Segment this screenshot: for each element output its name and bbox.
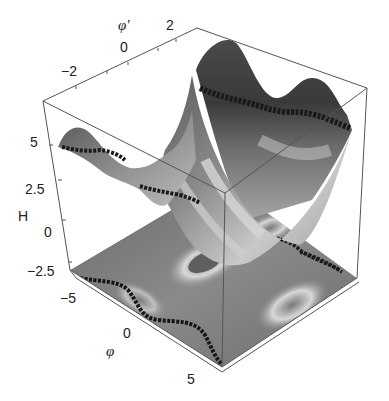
- y-tick-label: −2: [61, 63, 77, 79]
- x-tick-label: 5: [187, 371, 195, 387]
- surface-left-wave: [58, 110, 196, 206]
- z-tick-label: −2.5: [27, 263, 55, 279]
- surface: [58, 40, 352, 272]
- y-tick-label: 0: [120, 39, 128, 55]
- x-tick-label: −5: [60, 290, 76, 306]
- x-tick-label: 0: [123, 325, 131, 341]
- z-tick-label: 5: [30, 134, 38, 150]
- y-axis-title: φ': [118, 17, 130, 33]
- y-tick-label: 2: [166, 17, 174, 33]
- z-axis-title: H: [18, 208, 28, 224]
- z-tick-label: 2.5: [25, 181, 45, 197]
- z-tick-label: 0: [44, 224, 52, 240]
- x-axis-title: φ: [106, 343, 114, 359]
- surface-plot-3d: −2 0 2 φ' 5 2.5 0 −2.5 H −5 0 5 φ: [0, 0, 389, 401]
